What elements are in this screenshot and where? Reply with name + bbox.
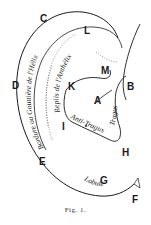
letter-a: A <box>94 96 101 106</box>
letter-b: B <box>127 82 134 92</box>
ear-diagram: Bordure ou Gouttière de l'Hélix Replis d… <box>0 0 151 225</box>
letter-i: I <box>62 122 65 132</box>
figure-caption: Fig. 1. <box>0 206 151 214</box>
letter-l: L <box>84 26 90 36</box>
letter-e: E <box>39 157 46 167</box>
label-tragus: Tragus <box>107 105 119 126</box>
letter-f: F <box>132 195 138 205</box>
letter-d: D <box>12 81 19 91</box>
letter-m: M <box>101 66 109 76</box>
letter-k: K <box>68 82 75 92</box>
letter-h: H <box>122 148 129 158</box>
letter-g: G <box>100 176 108 186</box>
letter-c: C <box>40 14 47 24</box>
ear-outline-drawing: Bordure ou Gouttière de l'Hélix Replis d… <box>0 0 151 225</box>
